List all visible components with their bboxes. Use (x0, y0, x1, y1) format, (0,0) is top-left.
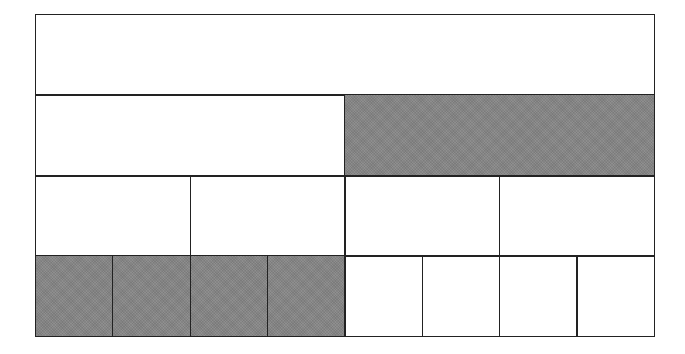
fraction-cell-eighths-3-shaded (190, 255, 269, 337)
fraction-cell-eighths-5 (344, 255, 423, 337)
fraction-cell-quarters-3 (344, 175, 500, 257)
fraction-cell-halves-2-shaded (344, 94, 655, 176)
fraction-cell-eighths-2-shaded (112, 255, 191, 337)
fraction-cell-quarters-4 (499, 175, 655, 257)
fraction-cell-eighths-4-shaded (267, 255, 346, 337)
fraction-cell-eighths-6 (422, 255, 501, 337)
fraction-cell-eighths-7 (499, 255, 578, 337)
fraction-cell-whole-1 (35, 14, 655, 96)
fraction-cell-halves-1 (35, 94, 346, 176)
fraction-cell-eighths-1-shaded (35, 255, 114, 337)
fraction-row-eighths (35, 255, 655, 337)
fraction-row-quarters (35, 175, 655, 257)
fraction-row-halves (35, 94, 655, 176)
fraction-cell-eighths-8 (576, 255, 655, 337)
fraction-row-whole (35, 14, 655, 96)
fraction-bar-diagram (35, 14, 655, 337)
fraction-cell-quarters-2 (190, 175, 346, 257)
fraction-cell-quarters-1 (35, 175, 191, 257)
